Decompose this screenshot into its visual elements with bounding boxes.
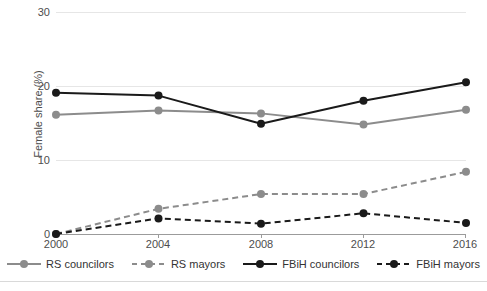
data-point — [257, 190, 265, 198]
data-point — [360, 190, 368, 198]
x-tick-label-2016: 2016 — [453, 238, 477, 250]
series-layer — [56, 12, 466, 234]
data-point — [360, 97, 368, 105]
data-point — [360, 120, 368, 128]
legend-swatch-rs-mayors — [132, 258, 166, 270]
x-tick-label-2012: 2012 — [351, 238, 375, 250]
data-point — [257, 120, 265, 128]
legend-label-rs-mayors: RS mayors — [171, 258, 225, 270]
data-point — [462, 78, 470, 86]
data-point — [155, 214, 163, 222]
legend-label-fbih-mayors: FBiH mayors — [416, 258, 480, 270]
legend-item-rs-councilors: RS councilors — [7, 258, 114, 270]
legend-item-fbih-mayors: FBiH mayors — [377, 258, 480, 270]
y-tick-20: 20 — [38, 80, 50, 92]
data-point — [257, 220, 265, 228]
legend-label-rs-councilors: RS councilors — [46, 258, 114, 270]
legend-swatch-fbih-mayors — [377, 258, 411, 270]
legend-swatch-rs-councilors — [7, 258, 41, 270]
chart-legend: RS councilors RS mayors FBiH councilors … — [0, 258, 487, 270]
plot-area: 30 20 10 0 2000 2004 2008 2012 2016 — [56, 12, 466, 234]
chart-container: Female share (%) 30 20 10 0 2000 2004 20… — [0, 0, 487, 291]
legend-item-rs-mayors: RS mayors — [132, 258, 225, 270]
data-point — [462, 219, 470, 227]
figure-caption — [0, 283, 487, 291]
legend-swatch-fbih-councilors — [243, 258, 277, 270]
x-tick-label-2004: 2004 — [146, 238, 170, 250]
data-point — [155, 205, 163, 213]
data-point — [155, 106, 163, 114]
x-tick-label-2000: 2000 — [44, 238, 68, 250]
data-point — [462, 168, 470, 176]
y-tick-30: 30 — [38, 6, 50, 18]
bottom-divider — [0, 281, 487, 282]
data-point — [155, 92, 163, 100]
legend-label-fbih-councilors: FBiH councilors — [282, 258, 359, 270]
data-point — [462, 106, 470, 114]
y-tick-10: 10 — [38, 154, 50, 166]
x-tick-label-2008: 2008 — [249, 238, 273, 250]
y-axis-label: Female share (%) — [32, 29, 44, 199]
data-point — [52, 230, 60, 238]
legend-item-fbih-councilors: FBiH councilors — [243, 258, 359, 270]
data-point — [257, 109, 265, 117]
data-point — [52, 89, 60, 97]
series-line-2 — [56, 82, 466, 123]
data-point — [360, 209, 368, 217]
data-point — [52, 111, 60, 119]
